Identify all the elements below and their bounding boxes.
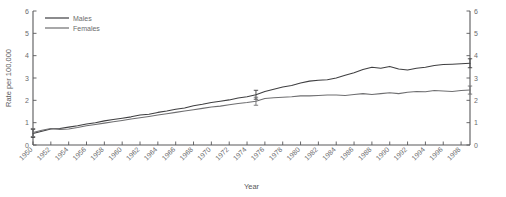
x-tick-label: 1958 <box>89 146 105 162</box>
x-tick-label: 1976 <box>250 146 266 162</box>
y-tick-label-right: 2 <box>474 97 478 104</box>
x-tick-label: 1974 <box>232 146 248 162</box>
x-tick-label: 1994 <box>410 146 426 162</box>
x-tick-label: 1996 <box>428 146 444 162</box>
x-tick-label: 1968 <box>178 146 194 162</box>
y-axis-title: Rate per 100,000 <box>4 49 13 107</box>
series-line-males <box>33 63 470 133</box>
y-tick-label-left: 4 <box>25 52 29 59</box>
line-chart: 0123456012345619501952195419561958196019… <box>0 0 506 197</box>
y-tick-label-left: 2 <box>25 97 29 104</box>
x-tick-label: 1950 <box>18 146 34 162</box>
y-tick-label-left: 5 <box>25 30 29 37</box>
y-tick-label-right: 5 <box>474 30 478 37</box>
chart-canvas: 0123456012345619501952195419561958196019… <box>0 0 506 197</box>
x-tick-label: 1954 <box>53 146 69 162</box>
series-line-females <box>33 90 470 132</box>
x-tick-label: 1992 <box>392 146 408 162</box>
x-tick-label: 1986 <box>339 146 355 162</box>
x-tick-label: 1966 <box>160 146 176 162</box>
y-tick-label-right: 1 <box>474 119 478 126</box>
x-tick-label: 1962 <box>125 146 141 162</box>
legend-label-males: Males <box>73 15 92 22</box>
y-tick-label-right: 6 <box>474 8 478 15</box>
x-axis-title: Year <box>244 182 260 191</box>
x-tick-label: 1960 <box>107 146 123 162</box>
y-tick-label-left: 1 <box>25 119 29 126</box>
x-tick-label: 1990 <box>374 146 390 162</box>
x-tick-label: 1984 <box>321 146 337 162</box>
x-tick-label: 1998 <box>446 146 462 162</box>
y-tick-label-left: 6 <box>25 8 29 15</box>
y-tick-label-left: 3 <box>25 75 29 82</box>
y-tick-label-right: 3 <box>474 75 478 82</box>
y-tick-label-right: 4 <box>474 52 478 59</box>
x-tick-label: 1980 <box>285 146 301 162</box>
x-tick-label: 1988 <box>357 146 373 162</box>
x-tick-label: 1970 <box>196 146 212 162</box>
x-tick-label: 1956 <box>71 146 87 162</box>
x-tick-label: 1982 <box>303 146 319 162</box>
y-tick-label-right: 0 <box>474 142 478 149</box>
legend-label-females: Females <box>73 25 100 32</box>
x-tick-label: 1978 <box>267 146 283 162</box>
x-tick-label: 1964 <box>143 146 159 162</box>
x-tick-label: 1972 <box>214 146 230 162</box>
x-tick-label: 1952 <box>36 146 52 162</box>
